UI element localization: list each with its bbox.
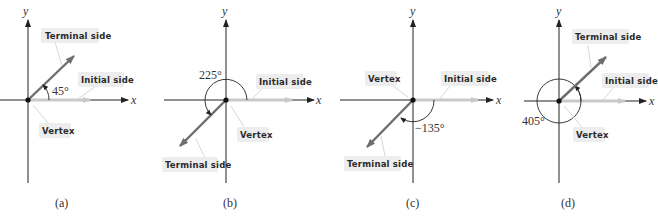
panel-caption: (a) (55, 196, 68, 210)
angle-label: −135° (415, 121, 445, 135)
angle-arc (575, 86, 581, 101)
leader-line (196, 139, 205, 158)
leader-line (252, 89, 262, 99)
angle-label: 405° (522, 114, 545, 128)
vertex-label: Vertex (240, 130, 273, 140)
panel-c: y −135° Vertex Initial side Terminal sid… (340, 4, 497, 210)
leader-line (393, 86, 408, 97)
vertex-label: Vertex (368, 74, 401, 84)
y-axis-label: y (555, 4, 562, 18)
vertex-dot (25, 97, 30, 102)
vertex-dot (556, 98, 561, 103)
vertex-label: Vertex (42, 126, 75, 136)
leader-line (440, 86, 450, 99)
x-axis-label: x (648, 94, 655, 108)
terminal-side-label: Terminal side (347, 159, 414, 169)
panel-caption: (b) (223, 196, 237, 210)
leader-line (603, 88, 613, 100)
terminal-side-label: Terminal side (165, 160, 232, 170)
leader-line (588, 45, 591, 68)
stray-x-label: x (495, 93, 502, 107)
panel-b: y x 225° Initial side Vertex Terminal si… (162, 4, 322, 210)
panel-caption: (d) (561, 196, 575, 210)
terminal-side-label: Terminal side (45, 31, 112, 41)
y-axis-label: y (221, 4, 228, 18)
y-axis-label: y (22, 4, 29, 18)
terminal-side-ray (367, 100, 413, 147)
initial-side-label: Initial side (259, 77, 312, 87)
panel-d: x y x 405° Terminal side Initial side Ve… (495, 4, 658, 210)
x-axis-label: x (315, 93, 322, 107)
vertex-dot (410, 97, 415, 102)
leader-line (55, 42, 62, 66)
angles-figure: y x 45° Terminal side Initial side Verte… (0, 0, 658, 217)
y-axis-label: y (409, 4, 416, 18)
initial-side-label: Initial side (605, 76, 658, 86)
angle-label: 45° (52, 84, 69, 98)
angle-arc (43, 85, 49, 100)
initial-side-label: Initial side (444, 74, 497, 84)
panel-a: y x 45° Terminal side Initial side Verte… (0, 4, 137, 210)
leader-line (78, 86, 96, 99)
leader-line (231, 106, 244, 127)
leader-line (33, 105, 48, 123)
initial-side-label: Initial side (81, 75, 134, 85)
terminal-side-ray (180, 100, 226, 146)
x-axis-label: x (130, 93, 137, 107)
panel-caption: (c) (406, 196, 419, 210)
angle-arc (401, 100, 434, 122)
leader-line (381, 136, 385, 156)
terminal-side-ray (559, 57, 606, 101)
vertex-label: Vertex (576, 130, 609, 140)
angle-label: 225° (199, 68, 222, 82)
vertex-dot (223, 97, 228, 102)
terminal-side-label: Terminal side (575, 32, 642, 42)
